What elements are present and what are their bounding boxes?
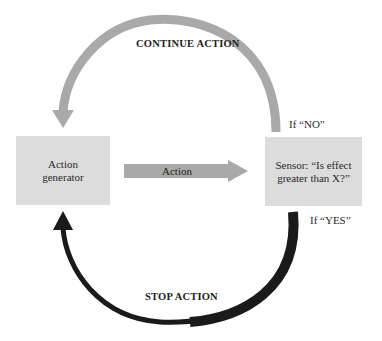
action-generator-label-line1: Action	[42, 158, 84, 171]
sensor-label-line1: Sensor: “Is effect	[275, 159, 351, 172]
action-generator-label-line2: generator	[42, 171, 84, 184]
stop-arrowhead-icon	[53, 211, 73, 230]
continue-action-label: CONTINUE ACTION	[136, 38, 240, 49]
stop-action-arc-thick	[190, 212, 294, 322]
if-yes-condition: If “YES”	[310, 214, 351, 226]
if-no-condition: If “NO”	[289, 118, 325, 130]
stop-action-arc	[63, 212, 293, 322]
action-generator-box: Action generator	[16, 136, 110, 205]
continue-arrowhead-icon	[52, 110, 74, 128]
action-arrowhead-icon	[228, 160, 248, 182]
continue-action-arc	[63, 19, 276, 132]
sensor-label-line2: greater than X?”	[275, 172, 351, 185]
action-arrow-label: Action	[124, 164, 230, 178]
sensor-box: Sensor: “Is effect greater than X?”	[265, 137, 362, 206]
stop-action-label: STOP ACTION	[145, 291, 218, 302]
